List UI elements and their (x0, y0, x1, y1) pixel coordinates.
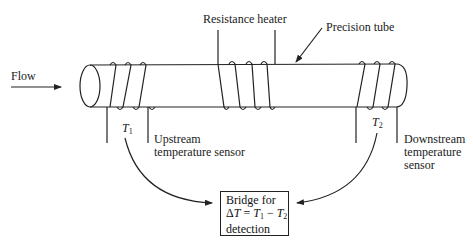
t1-subscript: 1 (129, 127, 133, 136)
precision-tube-pointer (296, 28, 322, 62)
bridge-equation: ΔT = T1 − T2 (226, 207, 288, 223)
t2-label: T2 (372, 116, 383, 132)
bridge-detection-box: Bridge for ΔT = T1 − T2 detection (220, 191, 289, 236)
resistance-heater-label: Resistance heater (203, 13, 287, 26)
t1-label: T1 (122, 122, 133, 138)
t2-subscript: 2 (379, 121, 383, 130)
eq-minus: − (264, 206, 277, 220)
downstream-line3: sensor (404, 159, 465, 172)
flow-label: Flow (11, 70, 36, 83)
bridge-line3: detection (226, 223, 288, 236)
delta-symbol: Δ (226, 206, 234, 220)
upstream-line2: temperature sensor (154, 146, 245, 159)
resistance-heater-coil (218, 30, 275, 110)
downstream-sensor-label: Downstream temperature sensor (404, 133, 465, 172)
t2-symbol: T (372, 115, 379, 129)
t1-symbol: T (122, 121, 129, 135)
eq-sub2: 2 (283, 212, 287, 221)
eq-T1: T (253, 206, 260, 220)
eq-sign: = (240, 206, 253, 220)
upstream-sensor-label: Upstream temperature sensor (154, 133, 245, 159)
t2-signal-path (297, 133, 377, 203)
precision-tube-label: Precision tube (326, 21, 394, 34)
